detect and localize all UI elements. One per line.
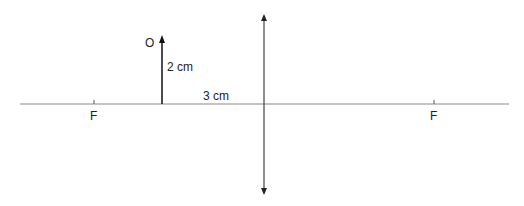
object-label: O — [145, 36, 154, 50]
object-arrowhead — [159, 35, 165, 43]
lens-top-arrowhead — [261, 14, 267, 21]
object-height-label: 2 cm — [167, 60, 193, 74]
lens-diagram: F F O 2 cm 3 cm — [0, 0, 524, 206]
lens-bottom-arrowhead — [261, 188, 267, 195]
focal-point-left-label: F — [90, 109, 97, 123]
object-distance-label: 3 cm — [203, 89, 229, 103]
focal-point-right-label: F — [430, 109, 437, 123]
